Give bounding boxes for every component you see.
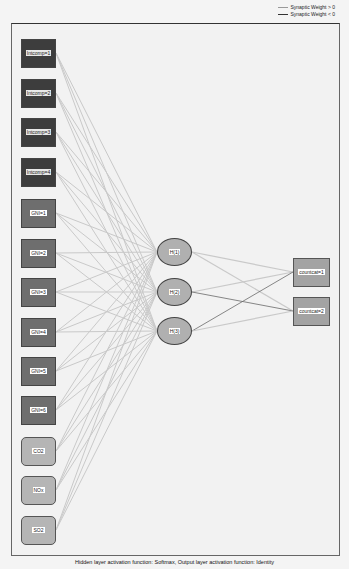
hidden-node-1: H(1) xyxy=(157,238,192,266)
output-node-countcat-2: countcat=2 xyxy=(293,297,330,326)
synapse-line xyxy=(192,311,293,331)
node-label: CO2 xyxy=(32,448,44,454)
input-node-nox: NOx xyxy=(21,476,56,505)
synapse-line xyxy=(56,252,157,530)
synapse-line xyxy=(56,331,157,530)
input-node-intcomp-4: Intcomp=4 xyxy=(21,158,56,187)
input-node-gni-1: GNI=1 xyxy=(21,199,56,228)
synapse-line xyxy=(56,93,157,252)
node-label: countcat=1 xyxy=(298,269,325,275)
node-label: H(2) xyxy=(169,289,181,295)
node-label: GNI=3 xyxy=(30,289,47,295)
figure-caption: Hidden layer activation function: Softma… xyxy=(0,559,349,565)
node-label: Intcomp=3 xyxy=(26,129,52,135)
synapse-line xyxy=(56,132,157,252)
input-node-gni-4: GNI=4 xyxy=(21,318,56,347)
input-node-intcomp-2: Intcomp=2 xyxy=(21,79,56,108)
node-label: Intcomp=1 xyxy=(26,50,52,56)
input-node-gni-5: GNI=5 xyxy=(21,357,56,386)
node-label: GNI=4 xyxy=(30,329,47,335)
node-label: GNI=5 xyxy=(30,368,47,374)
synapse-line xyxy=(56,292,157,530)
hidden-node-3: H(3) xyxy=(157,317,192,345)
synapse-line xyxy=(56,252,157,253)
input-node-gni-6: GNI=6 xyxy=(21,396,56,425)
node-label: GNI=6 xyxy=(30,407,47,413)
synapse-line xyxy=(56,252,157,451)
output-node-countcat-1: countcat=1 xyxy=(293,258,330,287)
synapse-line xyxy=(56,213,157,252)
node-label: countcat=2 xyxy=(298,308,325,314)
synapse-line xyxy=(56,172,157,331)
synapse-line xyxy=(56,53,157,252)
node-label: Intcomp=2 xyxy=(26,90,52,96)
node-label: SO2 xyxy=(32,527,44,533)
node-label: H(1) xyxy=(169,249,181,255)
node-label: H(3) xyxy=(169,328,181,334)
input-node-intcomp-3: Intcomp=3 xyxy=(21,118,56,147)
input-node-gni-3: GNI=3 xyxy=(21,278,56,307)
hidden-node-2: H(2) xyxy=(157,278,192,306)
node-label: Intcomp=4 xyxy=(26,169,52,175)
node-label: NOx xyxy=(33,487,45,493)
synapse-line xyxy=(56,172,157,252)
input-node-so2: SO2 xyxy=(21,516,56,545)
synapse-line xyxy=(192,272,293,292)
input-node-gni-2: GNI=2 xyxy=(21,239,56,268)
synapse-line xyxy=(192,252,293,272)
synapse-line xyxy=(56,252,157,490)
input-node-intcomp-1: Intcomp=1 xyxy=(21,39,56,68)
input-node-co2: CO2 xyxy=(21,437,56,466)
node-label: GNI=1 xyxy=(30,210,47,216)
synapse-line xyxy=(56,252,157,371)
node-label: GNI=2 xyxy=(30,250,47,256)
